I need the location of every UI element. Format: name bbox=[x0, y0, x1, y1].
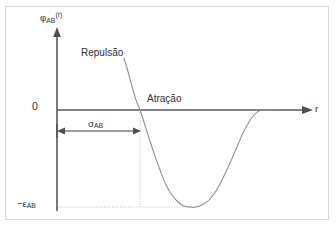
y-axis-arrowhead-icon bbox=[53, 27, 61, 37]
annotation-sigma-ab: σAB bbox=[88, 119, 103, 130]
annotation-repulsion: Repulsão bbox=[81, 48, 123, 58]
plot-canvas bbox=[0, 0, 336, 227]
y-axis-tick-zero: 0 bbox=[32, 101, 38, 112]
y-axis-tick-epsilon: −εAB bbox=[17, 199, 36, 210]
x-axis-label: r bbox=[315, 104, 318, 114]
x-axis-arrowhead-icon bbox=[302, 106, 313, 114]
sigma-arrowhead-left-icon bbox=[57, 128, 65, 135]
epsilon-symbol: −ε bbox=[17, 198, 27, 209]
epsilon-subscript: AB bbox=[27, 202, 36, 209]
sigma-subscript: AB bbox=[94, 122, 103, 129]
potential-energy-curve bbox=[124, 58, 278, 207]
figure-root: φAB(r) 0 r Repulsão Atração σAB −εAB bbox=[0, 0, 336, 227]
y-axis-label-superscript: (r) bbox=[55, 11, 62, 18]
y-axis-label: φAB(r) bbox=[40, 12, 62, 24]
annotation-attraction: Atração bbox=[147, 94, 181, 104]
